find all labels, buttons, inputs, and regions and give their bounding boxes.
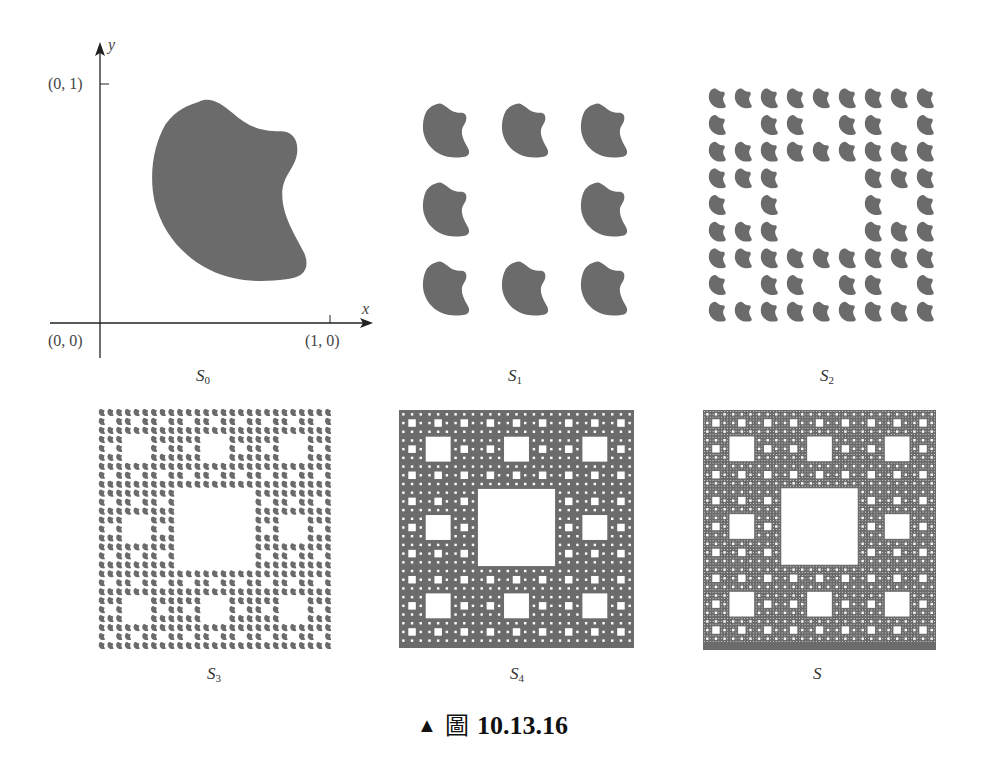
x-tick-label: (1, 0) bbox=[305, 332, 340, 350]
caption-prefix: 圖 bbox=[445, 712, 469, 740]
fractal-figure bbox=[0, 0, 985, 771]
panel-label-s: S bbox=[813, 664, 822, 684]
x-axis-label: x bbox=[362, 300, 369, 318]
origin-label: (0, 0) bbox=[48, 332, 83, 350]
s-limit-panel bbox=[703, 410, 936, 650]
s2-panel bbox=[709, 88, 934, 321]
s4-panel bbox=[399, 410, 634, 648]
panel-label-s0: S0 bbox=[196, 366, 210, 386]
figure-caption: ▲圖10.13.16 bbox=[0, 706, 985, 741]
y-tick-label: (0, 1) bbox=[48, 75, 83, 93]
caption-number: 10.13.16 bbox=[477, 711, 568, 740]
panel-label-s2: S2 bbox=[820, 366, 834, 386]
y-axis-label: y bbox=[108, 36, 115, 54]
s3-panel bbox=[99, 409, 331, 649]
triangle-marker-icon: ▲ bbox=[417, 714, 437, 736]
panel-label-s3: S3 bbox=[207, 664, 221, 684]
s0-shape bbox=[152, 100, 306, 281]
panel-label-s4: S4 bbox=[510, 664, 524, 684]
s1-panel bbox=[423, 103, 627, 315]
panel-label-s1: S1 bbox=[508, 366, 522, 386]
